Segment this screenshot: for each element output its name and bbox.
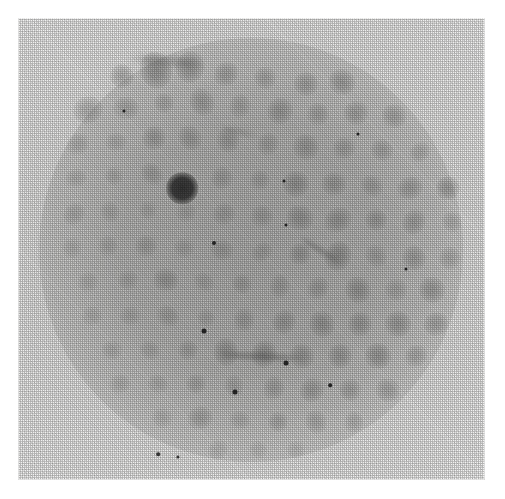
plate-paper-tone xyxy=(18,18,485,480)
photographic-plate xyxy=(18,18,485,480)
diffraction-figure xyxy=(0,0,505,499)
